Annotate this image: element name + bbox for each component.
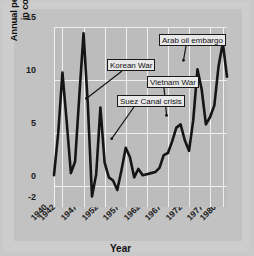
annotation-vietnam-war[interactable]: Vietnam War [147, 76, 199, 88]
y-axis-tick: 0 [12, 171, 36, 181]
annotation-suez-canal-crisis[interactable]: Suez Canal crisis [117, 95, 185, 107]
annotation-arab-oil-embargo[interactable]: Arab oil embargo [159, 34, 226, 46]
annotation-korean-war[interactable]: Korean War [107, 59, 155, 71]
figure-inner-frame: Annual percentage rate of change in cons… [14, 9, 242, 241]
y-axis-tick: 10 [12, 65, 36, 75]
y-axis-tick: -2 [12, 192, 36, 202]
chart-figure: Annual percentage rate of change in cons… [0, 0, 254, 256]
y-axis-tick: 5 [12, 118, 36, 128]
plot-area [54, 27, 227, 207]
y-axis-tick: 15 [12, 12, 36, 22]
cpi-line-series [54, 27, 227, 207]
x-axis-label: Year [110, 243, 131, 254]
